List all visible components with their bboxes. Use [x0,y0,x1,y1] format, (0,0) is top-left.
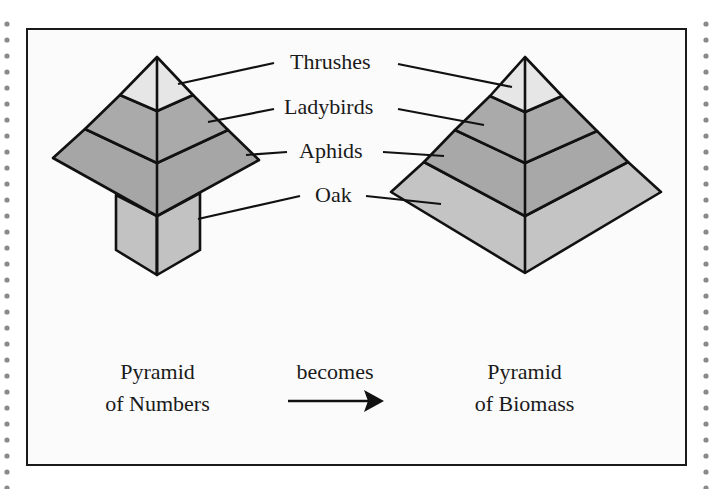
caption-line2: of Biomass [452,388,597,420]
caption-line2: of Numbers [85,388,230,420]
becomes-arrow-icon [288,390,384,412]
caption-becomes: becomes [280,356,390,388]
label-oak: Oak [315,184,352,206]
pyramid-of-biomass [391,57,661,273]
label-thrushes: Thrushes [290,51,371,73]
caption-pyramid-of-biomass: Pyramid of Biomass [452,356,597,420]
label-aphids: Aphids [299,140,363,162]
label-ladybirds: Ladybirds [284,96,373,118]
caption-line1: Pyramid [85,356,230,388]
pyramid-of-numbers [53,57,259,275]
caption-line1: Pyramid [452,356,597,388]
becomes-label: becomes [280,356,390,388]
caption-pyramid-of-numbers: Pyramid of Numbers [85,356,230,420]
